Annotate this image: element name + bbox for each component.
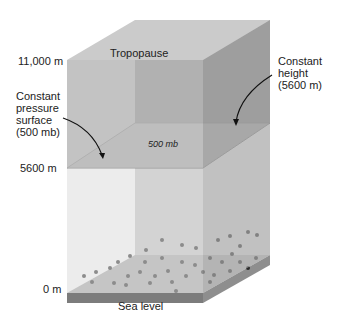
plane-500mb-label: 500 mb xyxy=(148,138,178,150)
lower-front-face xyxy=(67,168,203,293)
sea-level-label: Sea level xyxy=(118,300,163,312)
atmosphere-column-diagram xyxy=(0,0,341,318)
upper-front-face xyxy=(67,60,203,168)
height-5600-label: 5600 m xyxy=(20,162,57,174)
constant-height-label: Constant height (5600 m) xyxy=(278,55,322,91)
tropopause-label: Tropopause xyxy=(110,47,168,59)
constant-pressure-label: Constant pressure surface (500 mb) xyxy=(16,90,60,138)
height-0-label: 0 m xyxy=(43,283,61,295)
height-11000-label: 11,000 m xyxy=(18,55,63,67)
